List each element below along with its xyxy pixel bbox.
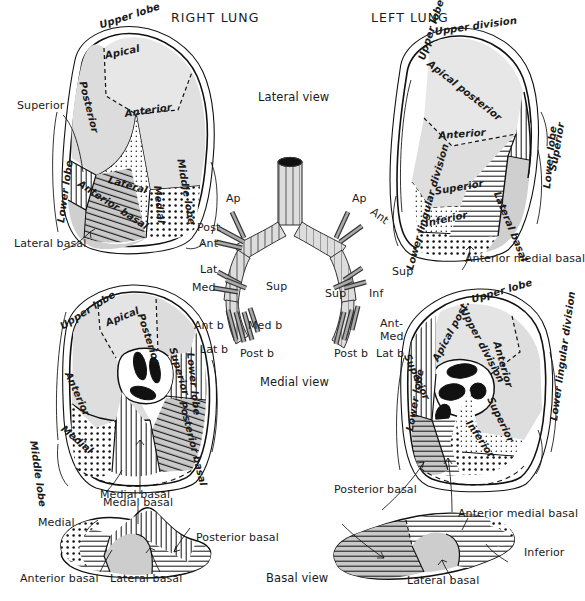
bronchus-right-post: Post xyxy=(197,222,220,234)
bronchus-left-sup: Sup xyxy=(325,288,346,300)
bronchus-left-ap: Ap xyxy=(352,193,367,205)
bronchus-right-ant: Ant xyxy=(199,238,218,250)
bronchus-left-ant: Ant- xyxy=(380,318,403,330)
left-lung-basal-figure xyxy=(334,513,514,579)
view-label-lateral: Lateral view xyxy=(258,92,329,104)
left-basal-inferior: Inferior xyxy=(524,547,565,559)
right-lung-basal-figure xyxy=(61,506,211,578)
right-basal-medial: Medial xyxy=(38,517,75,529)
left-medial-anterior-medial-basal: Anterior medial basal xyxy=(458,508,578,520)
bronchus-left-lat-b: Lat b xyxy=(376,348,404,360)
bronchus-right-ap: Ap xyxy=(226,193,241,205)
left-medial-posterior-basal-text: Posterior basal xyxy=(334,483,417,496)
bronchus-left-post-b: Post b xyxy=(334,348,368,360)
left-lateral-anterior-medial-basal: Anterior medial basal xyxy=(465,253,585,265)
right-lateral-lateral-basal-text: Lateral basal xyxy=(14,237,86,250)
bronchus-left-med: Med xyxy=(380,331,404,343)
bronchus-right-lat-b: Lat b xyxy=(200,344,228,356)
bronchus-right-ant-b: Ant b xyxy=(194,320,224,332)
right-basal-medial-basal: Medial basal xyxy=(103,497,173,509)
view-label-medial: Medial view xyxy=(260,377,329,389)
bronchial-tree-figure xyxy=(214,157,366,348)
right-basal-posterior-basal: Posterior basal xyxy=(196,532,279,544)
bronchus-right-lat: Lat xyxy=(200,264,217,276)
left-lateral-anterior-medial-basal-text: Anterior medial basal xyxy=(465,252,585,265)
bronchus-right-med-b: Med b xyxy=(248,320,282,332)
right-lateral-lateral-basal-label: Lateral basal xyxy=(14,238,86,250)
left-basal-lateral-basal: Lateral basal xyxy=(407,575,479,587)
right-lateral-superior-label: Superior xyxy=(17,100,64,112)
bronchus-left-lingula-sup: Sup xyxy=(392,266,413,278)
bronchus-right-med: Med xyxy=(192,282,216,294)
bronchus-left-lingula-inf: Inf xyxy=(369,288,383,300)
left-medial-posterior-basal: Posterior basal xyxy=(334,484,417,496)
bronchus-right-sup: Sup xyxy=(266,281,287,293)
view-label-basal: Basal view xyxy=(266,573,328,585)
right-basal-lateral-basal: Lateral basal xyxy=(110,573,182,585)
header-right-lung: RIGHT LUNG xyxy=(171,12,260,24)
right-basal-anterior-basal: Anterior basal xyxy=(20,573,99,585)
bronchus-right-post-b: Post b xyxy=(240,348,274,360)
